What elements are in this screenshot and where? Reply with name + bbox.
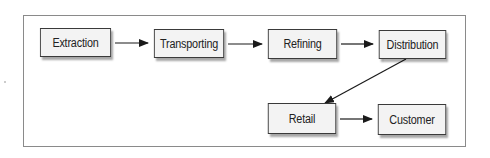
node-transporting: Transporting <box>154 29 224 58</box>
node-refining: Refining <box>268 29 337 59</box>
node-extraction: Extraction <box>40 28 111 57</box>
node-distribution: Distribution <box>379 30 447 59</box>
node-customer: Customer <box>378 104 446 135</box>
edge-distribution-retail <box>325 59 406 103</box>
node-retail: Retail <box>268 103 336 134</box>
